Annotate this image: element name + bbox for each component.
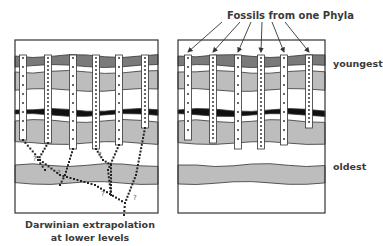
fossil-dot xyxy=(47,117,49,119)
fossil-dot xyxy=(144,81,146,83)
extrapolation-dot xyxy=(110,163,112,165)
extrapolation-dot xyxy=(73,178,75,180)
fossil-dot xyxy=(118,120,120,122)
fossil-dot xyxy=(308,65,310,67)
fossil-dot xyxy=(187,111,189,113)
fossil-dot xyxy=(237,93,239,95)
extrapolation-dot xyxy=(67,164,69,166)
fossil-dot xyxy=(72,102,74,104)
caption-line-1: Darwinian extrapolation xyxy=(20,218,160,231)
extrapolation-dot xyxy=(106,191,108,193)
extrapolation-dot xyxy=(29,148,31,150)
fossil-dot xyxy=(212,73,214,75)
extrapolation-dot xyxy=(102,159,104,161)
extrapolation-dot xyxy=(44,169,46,171)
extrapolation-dot xyxy=(66,176,68,178)
fossil-dot xyxy=(22,84,24,86)
fossil-dot xyxy=(187,84,189,86)
fossil-dot xyxy=(47,69,49,71)
fossil-column xyxy=(70,55,77,149)
fossil-dot xyxy=(212,97,214,99)
extrapolation-dot xyxy=(105,161,107,163)
fossil-dot xyxy=(95,57,97,59)
fossil-dot xyxy=(260,113,262,115)
fossil-dot xyxy=(260,81,262,83)
extrapolation-dot xyxy=(45,145,47,147)
extrapolation-dot xyxy=(126,196,128,198)
fossil-dot xyxy=(212,125,214,127)
fossil-dot xyxy=(212,121,214,123)
fossil-dot xyxy=(22,57,24,59)
extrapolation-dot xyxy=(143,130,145,132)
fossil-dot xyxy=(260,97,262,99)
fossil-column xyxy=(142,55,149,128)
extrapolation-dot xyxy=(118,144,120,146)
fossil-dot xyxy=(283,102,285,104)
fossil-dot xyxy=(95,65,97,67)
fossil-dot xyxy=(144,57,146,59)
fossil-dot xyxy=(47,89,49,91)
fossil-dot xyxy=(118,102,120,104)
question-mark: ? xyxy=(133,194,137,202)
extrapolation-dot xyxy=(44,148,46,150)
fossil-dot xyxy=(283,111,285,113)
extrapolation-dot xyxy=(141,144,143,146)
fossil-dot xyxy=(237,57,239,59)
fossil-dot xyxy=(72,120,74,122)
fossil-dot xyxy=(47,121,49,123)
extrapolation-dot xyxy=(27,145,29,147)
fossil-column xyxy=(185,55,192,140)
extrapolation-dot xyxy=(37,156,39,158)
fossil-dot xyxy=(95,109,97,111)
light-gray-layer-1 xyxy=(15,71,158,92)
extrapolation-dot xyxy=(110,177,112,179)
fossil-dot xyxy=(144,61,146,63)
fossil-dot xyxy=(118,111,120,113)
extrapolation-dot xyxy=(42,161,44,163)
extrapolation-dot xyxy=(115,197,117,199)
extrapolation-dot xyxy=(129,190,131,192)
light-gray-layer-2 xyxy=(15,120,158,145)
column-body xyxy=(70,55,77,149)
fossil-column xyxy=(306,55,313,128)
fossil-dot xyxy=(308,77,310,79)
fossil-dot xyxy=(260,73,262,75)
fossil-dot xyxy=(237,120,239,122)
fossil-column xyxy=(116,55,123,145)
fossil-dot xyxy=(72,138,74,140)
fossil-dot xyxy=(144,117,146,119)
extrapolation-dot xyxy=(84,181,86,183)
caption: Darwinian extrapolation at lower levels xyxy=(20,218,160,244)
fossil-dot xyxy=(308,57,310,59)
fossil-dot xyxy=(95,125,97,127)
fossil-dot xyxy=(283,75,285,77)
extrapolation-dot xyxy=(97,186,99,188)
fossil-dot xyxy=(95,77,97,79)
fossil-dot xyxy=(22,93,24,95)
fossil-dot xyxy=(72,75,74,77)
extrapolation-dot xyxy=(66,168,68,170)
fossil-dot xyxy=(144,97,146,99)
fossil-dot xyxy=(187,93,189,95)
extrapolation-dot xyxy=(108,180,110,182)
fossil-dot xyxy=(47,61,49,63)
fossil-dot xyxy=(308,73,310,75)
extrapolation-dot xyxy=(42,166,44,168)
fossil-dot xyxy=(144,101,146,103)
question-mark: ? xyxy=(33,155,37,163)
fossil-dot xyxy=(72,66,74,68)
fossil-dot xyxy=(260,121,262,123)
fossil-dot xyxy=(260,57,262,59)
fossil-dot xyxy=(283,120,285,122)
fossil-dot xyxy=(47,101,49,103)
extrapolation-dot xyxy=(114,153,116,155)
extrapolation-dot xyxy=(70,155,72,157)
fossil-dot xyxy=(47,65,49,67)
left-panel xyxy=(15,40,158,213)
fossil-dot xyxy=(260,65,262,67)
extrapolation-dot xyxy=(142,137,144,139)
fossil-dot xyxy=(260,125,262,127)
fossil-dot xyxy=(95,141,97,143)
fossil-dot xyxy=(22,75,24,77)
